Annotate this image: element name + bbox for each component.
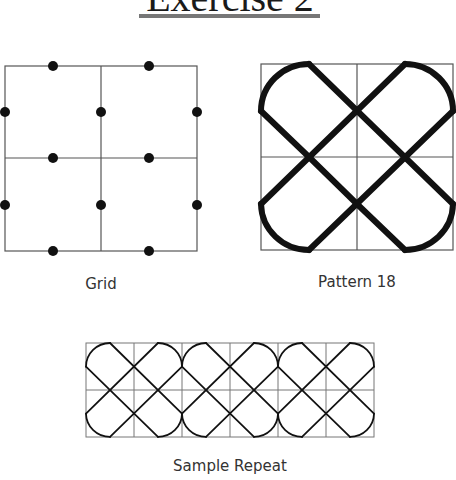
sample-grid	[86, 343, 374, 437]
diagram-canvas	[0, 0, 456, 480]
grid-figure	[5, 66, 197, 251]
sample-label: Sample Repeat	[150, 457, 310, 475]
pattern-label: Pattern 18	[297, 273, 417, 291]
pattern-grid	[261, 64, 453, 250]
grid-label: Grid	[51, 275, 151, 293]
